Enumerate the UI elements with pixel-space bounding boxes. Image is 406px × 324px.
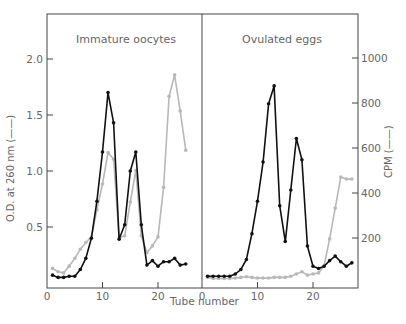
left-tick-label: 1.0 — [26, 165, 43, 177]
od-point — [300, 158, 304, 162]
od-point — [234, 272, 238, 276]
od-point — [322, 264, 326, 268]
od-point — [228, 274, 232, 278]
od-point — [317, 267, 321, 271]
cpm-point — [261, 276, 265, 280]
cpm-point — [51, 267, 55, 271]
cpm-point — [151, 244, 155, 248]
od-point — [112, 121, 116, 125]
cpm-point — [289, 274, 293, 278]
od-point — [339, 260, 343, 264]
cpm-point — [184, 148, 188, 152]
cpm-point — [300, 270, 304, 274]
cpm-point — [62, 271, 66, 275]
od-point — [261, 160, 265, 164]
od-point — [278, 204, 282, 208]
cpm-point — [333, 206, 337, 210]
cpm-point — [101, 182, 105, 186]
od-point — [311, 264, 315, 268]
cpm-point — [350, 177, 354, 181]
od-point — [156, 264, 160, 268]
cpm-point — [339, 175, 343, 179]
od-point — [79, 268, 83, 272]
od-point — [173, 257, 177, 261]
od-point — [306, 244, 310, 248]
od-point — [206, 274, 210, 278]
od-point — [245, 258, 249, 262]
od-point — [73, 274, 77, 278]
od-point — [283, 240, 287, 244]
left-tick-label: 1.5 — [26, 109, 43, 121]
left-y-axis-label: O.D. at 260 nm (——) — [5, 115, 16, 222]
od-point — [272, 84, 276, 88]
x-axis-label: Tube number — [169, 295, 240, 307]
od-point — [62, 276, 66, 280]
od-point — [162, 260, 166, 264]
cpm-point — [283, 276, 287, 280]
od-point — [267, 102, 271, 106]
right-y-axis-label: CPM (——) — [383, 125, 394, 178]
cpm-point — [250, 276, 254, 280]
od-point — [134, 150, 138, 154]
od-point — [222, 274, 226, 278]
od-point — [167, 260, 171, 264]
od-point — [250, 232, 254, 236]
cpm-point — [173, 73, 177, 77]
left-tick-label: 0.5 — [26, 221, 43, 233]
right-tick-label: 200 — [361, 232, 381, 244]
od-point — [151, 259, 155, 263]
cpm-point — [245, 275, 249, 279]
cpm-point — [128, 200, 132, 204]
cpm-point — [345, 177, 349, 181]
right-tick-label: 800 — [361, 97, 381, 109]
od-point — [211, 274, 215, 278]
cpm-point — [256, 276, 260, 280]
od-point — [350, 261, 354, 265]
od-point — [56, 276, 60, 280]
od-point — [51, 273, 55, 277]
cpm-point — [317, 271, 321, 275]
cpm-point — [295, 272, 299, 276]
od-line — [53, 93, 186, 278]
od-point — [289, 188, 293, 192]
cpm-point — [311, 272, 315, 276]
cpm-point — [306, 273, 310, 277]
od-point — [333, 254, 337, 258]
x-tick-label: 10 — [251, 290, 264, 302]
cpm-point — [272, 276, 276, 280]
od-point — [128, 169, 132, 173]
x-tick-label: 0 — [44, 290, 51, 302]
cpm-point — [123, 234, 127, 238]
right-tick-label: 400 — [361, 187, 381, 199]
chart: Immature oocytes Ovulated eggs 0.51.01.5… — [0, 0, 406, 324]
od-point — [67, 274, 71, 278]
panel-title-immature-oocytes: Immature oocytes — [76, 33, 176, 46]
od-point — [95, 199, 99, 203]
od-point — [239, 268, 243, 272]
cpm-point — [73, 256, 77, 260]
cpm-point — [67, 264, 71, 268]
cpm-point — [84, 241, 88, 245]
cpm-point — [56, 270, 60, 274]
cpm-point — [106, 151, 110, 155]
od-point — [117, 238, 121, 242]
left-tick-label: 2.0 — [26, 53, 43, 65]
cpm-point — [239, 276, 243, 280]
x-tick-label: 20 — [151, 290, 164, 302]
od-point — [256, 199, 260, 203]
od-point — [217, 274, 221, 278]
od-point — [145, 263, 149, 267]
od-point — [328, 259, 332, 263]
cpm-point — [328, 237, 332, 241]
right-tick-label: 1000 — [361, 52, 388, 64]
od-point — [295, 137, 299, 141]
od-point — [140, 223, 144, 227]
right-tick-label: 600 — [361, 142, 381, 154]
od-point — [178, 263, 182, 267]
cpm-line — [53, 75, 186, 273]
x-tick-label: 20 — [306, 290, 319, 302]
cpm-point — [156, 235, 160, 239]
panel-title-ovulated-eggs: Ovulated eggs — [242, 33, 322, 46]
x-tick-label: 10 — [96, 290, 109, 302]
cpm-point — [167, 94, 171, 98]
